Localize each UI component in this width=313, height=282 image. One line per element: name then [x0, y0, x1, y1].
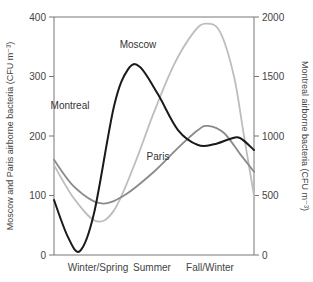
axes: 01002003004000500100015002000Winter/Spri… — [5, 12, 310, 274]
y-left-tick-label: 200 — [29, 131, 46, 142]
line-chart: 01002003004000500100015002000Winter/Spri… — [0, 0, 313, 282]
x-tick-label: Summer — [133, 262, 171, 273]
y-left-tick-label: 100 — [29, 190, 46, 201]
y-left-tick-label: 300 — [29, 71, 46, 82]
y-left-tick-label: 0 — [40, 250, 46, 261]
series-line-moscow — [54, 24, 254, 222]
x-tick-label: Winter/Spring — [68, 262, 129, 273]
y-right-tick-label: 0 — [262, 250, 268, 261]
series-labels: MoscowParisMontreal — [51, 39, 170, 162]
series-line-paris — [54, 126, 254, 204]
y-right-tick-label: 500 — [262, 190, 279, 201]
series-label-moscow: Moscow — [120, 39, 157, 50]
y-right-axis-title: Montreal airborne bacteria (CFU m⁻³) — [300, 61, 310, 211]
series-lines — [54, 24, 254, 252]
y-right-tick-label: 1500 — [262, 71, 285, 82]
series-label-montreal: Montreal — [51, 100, 90, 111]
x-tick-label: Fall/Winter — [186, 262, 234, 273]
y-left-tick-label: 400 — [29, 12, 46, 23]
y-right-tick-label: 2000 — [262, 12, 285, 23]
series-label-paris: Paris — [147, 151, 170, 162]
y-right-tick-label: 1000 — [262, 131, 285, 142]
y-left-axis-title: Moscow and Paris airborne bacteria (CFU … — [5, 42, 15, 231]
